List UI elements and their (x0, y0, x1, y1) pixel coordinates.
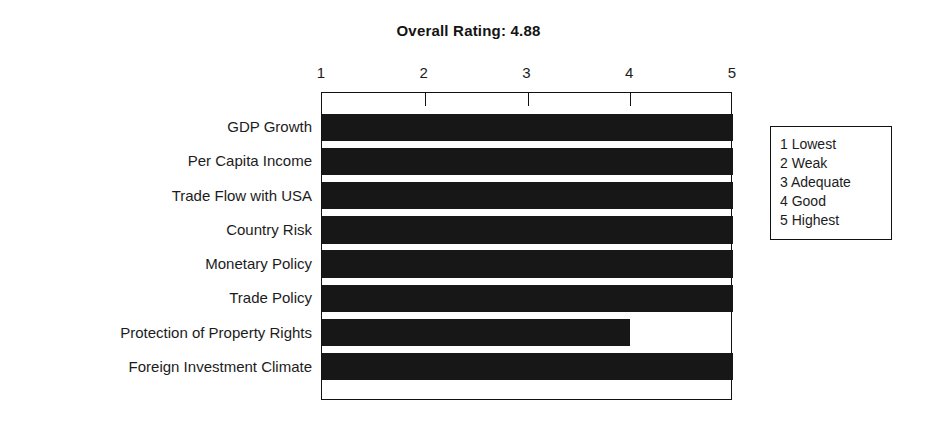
legend-item: 3 Adequate (780, 173, 891, 192)
bar-row (322, 148, 731, 175)
bar-row (322, 216, 731, 243)
x-tick-label: 4 (625, 64, 633, 81)
bar (322, 182, 733, 209)
plot-area (321, 92, 732, 400)
x-axis-tick-labels: 12345 (321, 64, 732, 88)
x-tick-mark (630, 93, 631, 106)
legend-item: 4 Good (780, 192, 891, 211)
category-axis-labels: GDP GrowthPer Capita IncomeTrade Flow wi… (10, 0, 312, 441)
chart-title-text: Overall Rating: 4.88 (396, 22, 540, 39)
bar-row (322, 114, 731, 141)
bar (322, 285, 733, 312)
bar (322, 114, 733, 141)
x-tick-label: 1 (317, 64, 325, 81)
category-label: Protection of Property Rights (12, 323, 312, 340)
bar-row (322, 319, 731, 346)
x-tick-label: 2 (420, 64, 428, 81)
x-tick-mark (528, 93, 529, 106)
category-label: Trade Flow with USA (12, 186, 312, 203)
bar (322, 148, 733, 175)
legend-item: 2 Weak (780, 154, 891, 173)
category-label: Monetary Policy (12, 255, 312, 272)
category-label: Trade Policy (12, 289, 312, 306)
bars-container (322, 93, 731, 399)
bar (322, 319, 630, 346)
x-tick-label: 3 (522, 64, 530, 81)
category-label: Country Risk (12, 220, 312, 237)
bar-row (322, 285, 731, 312)
category-label: Per Capita Income (12, 152, 312, 169)
bar-row (322, 182, 731, 209)
bar-row (322, 353, 731, 380)
category-label: GDP Growth (12, 118, 312, 135)
category-label: Foreign Investment Climate (12, 357, 312, 374)
legend-item: 1 Lowest (780, 135, 891, 154)
x-tick-mark (425, 93, 426, 106)
bar-row (322, 250, 731, 277)
x-tick-label: 5 (728, 64, 736, 81)
legend-item: 5 Highest (780, 211, 891, 230)
bar (322, 250, 733, 277)
bar (322, 216, 733, 243)
rating-scale-legend: 1 Lowest2 Weak3 Adequate4 Good5 Highest (770, 126, 892, 240)
bar (322, 353, 733, 380)
